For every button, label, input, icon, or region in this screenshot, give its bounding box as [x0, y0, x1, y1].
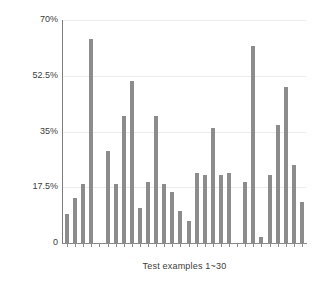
bar — [138, 208, 142, 243]
x-axis-tick — [221, 244, 222, 247]
bar-series — [63, 20, 306, 243]
bar — [300, 202, 304, 243]
x-axis-tick — [91, 244, 92, 247]
x-axis-tick — [237, 244, 238, 247]
x-axis-tick — [156, 244, 157, 247]
bar — [162, 184, 166, 243]
bar — [219, 175, 223, 243]
x-axis-ticks — [63, 244, 306, 248]
bar — [73, 198, 77, 243]
x-axis-tick — [205, 244, 206, 247]
x-axis-tick — [164, 244, 165, 247]
y-axis-tick-label: 35% — [2, 126, 58, 136]
x-axis-tick — [172, 244, 173, 247]
x-axis-tick — [99, 244, 100, 247]
x-axis-tick — [253, 244, 254, 247]
y-axis-tick-label: 52.5% — [2, 70, 58, 80]
bar — [243, 182, 247, 243]
bar — [114, 184, 118, 243]
y-axis-tick-label: 0 — [2, 237, 58, 247]
x-axis-tick — [213, 244, 214, 247]
bar — [292, 165, 296, 243]
bar — [211, 128, 215, 243]
x-axis-tick — [245, 244, 246, 247]
x-axis-tick — [278, 244, 279, 247]
bar — [170, 192, 174, 243]
bar — [187, 221, 191, 243]
bar — [65, 214, 69, 243]
bar — [81, 184, 85, 243]
bar — [154, 116, 158, 243]
bar — [203, 175, 207, 243]
x-axis-tick — [75, 244, 76, 247]
x-axis-tick — [286, 244, 287, 247]
x-axis-tick — [189, 244, 190, 247]
bar — [146, 182, 150, 243]
bar — [268, 175, 272, 243]
x-axis-tick — [302, 244, 303, 247]
y-axis-tick-label: 17.5% — [2, 181, 58, 191]
x-axis-tick — [294, 244, 295, 247]
bar — [178, 211, 182, 243]
x-axis-tick — [270, 244, 271, 247]
bar-chart: comp 017.5%35%52.5%70% Test examples 1~3… — [0, 0, 315, 286]
bar — [122, 116, 126, 243]
bar — [106, 151, 110, 243]
bar — [276, 125, 280, 243]
y-axis-tick-label: 70% — [2, 14, 58, 24]
x-axis-tick — [148, 244, 149, 247]
bar — [227, 173, 231, 243]
bar — [284, 87, 288, 243]
bar — [130, 81, 134, 243]
x-axis-tick — [108, 244, 109, 247]
x-axis-tick — [132, 244, 133, 247]
x-axis-title: Test examples 1~30 — [63, 261, 306, 271]
x-axis-tick — [140, 244, 141, 247]
x-axis-tick — [197, 244, 198, 247]
bar — [195, 173, 199, 243]
x-axis-tick — [116, 244, 117, 247]
x-axis-tick — [124, 244, 125, 247]
x-axis-tick — [229, 244, 230, 247]
x-axis-tick — [67, 244, 68, 247]
bar — [259, 237, 263, 243]
x-axis-tick — [261, 244, 262, 247]
x-axis-tick — [83, 244, 84, 247]
x-axis-tick — [180, 244, 181, 247]
bar — [251, 46, 255, 244]
y-axis-tick-labels: 017.5%35%52.5%70% — [0, 0, 58, 286]
bar — [89, 39, 93, 243]
